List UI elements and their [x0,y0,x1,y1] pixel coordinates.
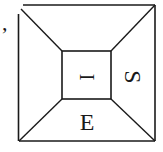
diagonal-top-left [21,9,62,51]
diagonal-top-right [111,5,155,51]
label-bottom-E: E [80,109,95,135]
square-frustum-diagram: , I S E [0,0,163,152]
diagonal-bottom-right [111,99,155,141]
diagonal-bottom-left [19,99,62,141]
label-right-S: S [120,70,146,83]
label-inner-I: I [76,74,98,81]
leading-comma: , [2,10,8,35]
